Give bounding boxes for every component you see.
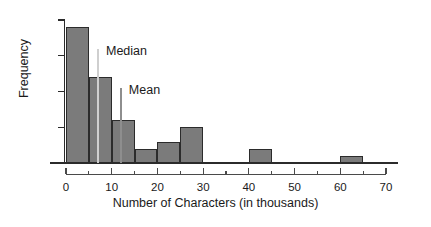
x-axis-tick-major — [340, 168, 341, 174]
mean-indicator-line — [120, 88, 122, 163]
x-axis-tick-label: 0 — [51, 181, 81, 193]
x-axis-tick-minor — [271, 171, 272, 175]
x-axis-tick-label: 10 — [97, 181, 127, 193]
x-axis-tick-label: 50 — [280, 181, 310, 193]
x-axis-tick-major — [157, 168, 158, 174]
histogram-bar — [89, 77, 112, 163]
y-axis-title: Frequency — [18, 9, 31, 129]
x-axis-tick-minor — [317, 171, 318, 175]
x-axis-tick-minor — [134, 171, 135, 175]
histogram-bar — [340, 156, 363, 163]
median-label: Median — [106, 45, 147, 58]
x-axis-tick-label: 30 — [188, 181, 218, 193]
x-axis-tick-major — [65, 168, 66, 174]
x-axis-tick-major — [203, 168, 204, 174]
histogram-bar — [249, 149, 272, 163]
x-axis-tick-major — [248, 168, 249, 174]
x-axis-tick-label: 60 — [325, 181, 355, 193]
plot-area — [66, 20, 386, 163]
x-axis-tick-label: 40 — [234, 181, 264, 193]
histogram-bar — [180, 127, 203, 163]
median-indicator-line — [97, 49, 99, 163]
x-axis-title: Number of Characters (in thousands) — [0, 197, 431, 210]
x-axis-tick-minor — [225, 171, 226, 175]
x-axis-tick-major — [294, 168, 295, 174]
histogram-figure: 05101520 MedianMean 010203040506070 Freq… — [0, 0, 431, 227]
histogram-bar — [112, 120, 135, 163]
x-axis-tick-label: 70 — [371, 181, 401, 193]
mean-label: Mean — [129, 84, 160, 97]
x-axis-tick-minor — [88, 171, 89, 175]
x-axis-tick-major — [385, 168, 386, 174]
histogram-bar — [66, 27, 89, 163]
x-axis-tick-minor — [363, 171, 364, 175]
x-axis-ruler — [66, 174, 386, 175]
histogram-bar — [135, 149, 158, 163]
x-axis-tick-major — [111, 168, 112, 174]
histogram-bar — [157, 142, 180, 163]
x-axis-tick-label: 20 — [142, 181, 172, 193]
x-axis-tick-minor — [180, 171, 181, 175]
